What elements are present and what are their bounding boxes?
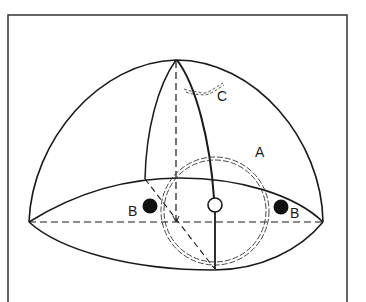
frame xyxy=(8,15,347,302)
label-c: C xyxy=(217,88,227,104)
dot-b-right xyxy=(274,200,289,215)
label-b-left: B xyxy=(128,203,137,219)
label-a: A xyxy=(255,144,265,160)
dot-b-left xyxy=(143,199,158,214)
meridian-left-hidden xyxy=(145,179,214,268)
meridian-left xyxy=(145,60,176,179)
center-open-dot xyxy=(208,198,222,212)
hemisphere-diagram: A B B C xyxy=(0,0,366,302)
base-bottom-arc xyxy=(29,222,323,270)
label-b-right: B xyxy=(290,205,299,221)
